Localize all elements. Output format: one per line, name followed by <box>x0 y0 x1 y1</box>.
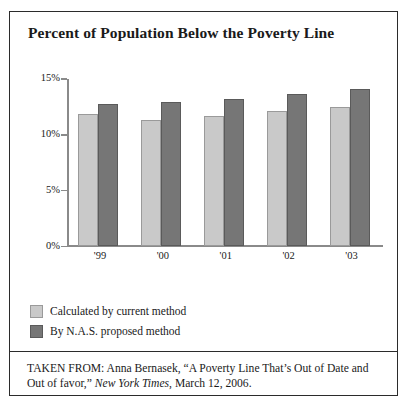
source-publication: New York Times <box>95 377 169 390</box>
chart-legend: Calculated by current method By N.A.S. p… <box>30 303 186 343</box>
bar-01-nas <box>224 99 244 246</box>
legend-item-current-method: Calculated by current method <box>30 303 186 320</box>
y-axis-tick-label: 10% <box>16 128 60 139</box>
y-axis-tick-label: 5% <box>16 184 60 195</box>
bar-00-nas <box>161 102 181 246</box>
y-axis-tick <box>61 78 67 80</box>
legend-label-nas-method: By N.A.S. proposed method <box>50 325 180 338</box>
y-axis-line <box>67 79 69 246</box>
bar-99-current <box>78 114 98 247</box>
legend-swatch-light <box>30 305 43 318</box>
bar-03-nas <box>350 89 370 246</box>
y-axis-tick <box>61 246 67 248</box>
legend-label-current-method: Calculated by current method <box>50 305 186 318</box>
bar-99-nas <box>98 104 118 247</box>
source-divider <box>10 351 397 352</box>
y-axis-tick-label: 15% <box>16 72 60 83</box>
x-axis-tick-label: '99 <box>75 250 125 261</box>
x-axis-tick-label: '01 <box>201 250 251 261</box>
bar-00-current <box>141 120 161 246</box>
y-axis-tick <box>61 134 67 136</box>
bar-01-current <box>204 116 224 247</box>
source-suffix: , March 12, 2006. <box>169 377 251 390</box>
x-axis-tick-label: '03 <box>327 250 377 261</box>
legend-swatch-dark <box>30 325 43 338</box>
x-axis-tick-label: '02 <box>264 250 314 261</box>
bar-02-current <box>267 111 287 246</box>
bar-02-nas <box>287 94 307 247</box>
figure-panel: Percent of Population Below the Poverty … <box>9 11 398 396</box>
y-axis-tick-label: 0% <box>16 240 60 251</box>
bar-03-current <box>330 107 350 247</box>
y-axis-tick <box>61 190 67 192</box>
source-citation: TAKEN FROM: Anna Bernasek, “A Poverty Li… <box>27 361 383 391</box>
x-axis-tick-label: '00 <box>138 250 188 261</box>
legend-item-nas-method: By N.A.S. proposed method <box>30 323 186 340</box>
